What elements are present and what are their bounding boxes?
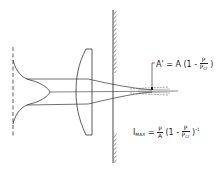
gaussian-profile — [13, 60, 50, 124]
wall-hatching-top — [114, 10, 117, 73]
optics-diagram — [0, 0, 221, 175]
area-equation: A' = A (1 - P Pcr ) — [156, 57, 213, 72]
upper-ray — [27, 79, 152, 90]
optical-axis — [50, 91, 178, 92]
area-pointer — [152, 63, 155, 88]
wall-hatching-bottom — [114, 133, 117, 163]
lower-ray — [27, 92, 152, 105]
intensity-equation: IMAX = P A (1 - P Pcr )-1 — [133, 125, 200, 140]
